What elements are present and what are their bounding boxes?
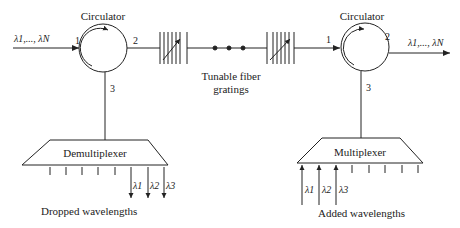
mux-label: Multiplexer [334, 146, 386, 158]
input-wavelengths-label: λ1,..., λN [13, 33, 51, 44]
added-wavelengths-caption: Added wavelengths [318, 207, 405, 219]
right-port-1-label: 1 [326, 34, 331, 45]
oadm-diagram: Circulator λ1,..., λN 1 2 3 [0, 0, 460, 228]
multiplexer: Multiplexer λ1 λ2 λ3 Added wavelengths [297, 138, 423, 219]
dot [213, 46, 217, 50]
left-port-2-label: 2 [133, 35, 138, 46]
dropped-wavelengths-caption: Dropped wavelengths [41, 205, 137, 217]
tunable-grating-2 [270, 32, 294, 64]
add-lambda-1: λ1 [304, 184, 314, 195]
left-circulator-circle [79, 24, 127, 72]
add-lambda-2: λ2 [321, 184, 331, 195]
tunable-grating-1 [160, 32, 180, 64]
left-circulator-rotation-arrow [80, 28, 108, 66]
fiber-with-gratings: Tunable fiber gratings [127, 32, 340, 95]
demux-label: Demultiplexer [63, 147, 127, 159]
demultiplexer: Demultiplexer λ1 λ2 λ3 Dropped wavelengt… [22, 140, 175, 217]
right-circulator: Circulator 1 2 3 λ1,..., λN [326, 10, 450, 138]
output-wavelengths-label: λ1,..., λN [407, 37, 445, 48]
right-circulator-circle [341, 23, 389, 71]
gratings-label-line2: gratings [213, 83, 248, 95]
right-circulator-label: Circulator [340, 10, 385, 22]
gratings-label-line1: Tunable fiber [201, 70, 261, 82]
dot [241, 46, 245, 50]
left-circulator: Circulator λ1,..., λN 1 2 3 [13, 10, 138, 140]
right-circulator-rotation-arrow [343, 29, 364, 65]
drop-lambda-3: λ3 [165, 180, 175, 191]
dot [227, 46, 231, 50]
left-port-1-label: 1 [75, 35, 80, 46]
left-port-3-label: 3 [110, 83, 115, 94]
add-lambda-3: λ3 [338, 184, 348, 195]
drop-lambda-1: λ1 [132, 180, 142, 191]
drop-lambda-2: λ2 [149, 180, 159, 191]
right-port-2-label: 2 [385, 31, 390, 42]
left-circulator-label: Circulator [81, 10, 126, 22]
right-port-3-label: 3 [366, 82, 371, 93]
